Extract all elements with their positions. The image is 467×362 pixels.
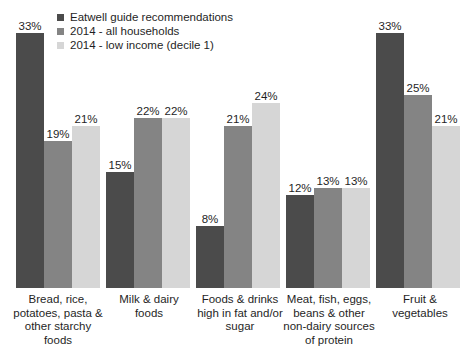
bar-g4-s0[interactable] (376, 33, 404, 288)
bar-wrap-g4-s2: 21% (432, 0, 460, 288)
legend-swatch-icon-series-1 (57, 14, 64, 21)
x-axis-label-4: Fruit & vegetables (376, 293, 464, 320)
bar-chart: Eatwell guide recommendations 2014 - all… (0, 0, 467, 362)
x-axis-category-labels: Bread, rice, potatoes, pasta & other sta… (0, 293, 467, 362)
bar-g3-s0[interactable] (286, 195, 314, 288)
legend-item-2014-all-households: 2014 - all households (57, 25, 233, 37)
bar-wrap-g3-s0: 12% (286, 0, 314, 288)
bar-g2-s2[interactable] (252, 103, 280, 288)
x-axis-label-1: Milk & dairy foods (104, 293, 194, 320)
legend-label-series-3: 2014 - low income (decile 1) (70, 39, 214, 51)
bar-wrap-g0-s0: 33% (16, 0, 44, 288)
x-axis-label-3: Meat, fish, eggs, beans & other non-dair… (282, 293, 376, 347)
legend-swatch-icon-series-3 (57, 42, 64, 49)
bar-value-g3-s2: 13% (334, 175, 378, 188)
bar-value-g4-s2: 21% (424, 113, 467, 126)
bar-g0-s1[interactable] (44, 141, 72, 288)
bar-value-g0-s2: 21% (64, 113, 108, 126)
bar-wrap-g4-s0: 33% (376, 0, 404, 288)
bar-g0-s0[interactable] (16, 33, 44, 288)
bar-value-g1-s2: 22% (154, 105, 198, 118)
bar-g1-s2[interactable] (162, 118, 190, 288)
bar-value-g2-s2: 24% (244, 90, 288, 103)
x-axis-label-2: Foods & drinks high in fat and/or sugar (194, 293, 286, 334)
bar-wrap-g3-s2: 13% (342, 0, 370, 288)
bar-wrap-g3-s1: 13% (314, 0, 342, 288)
legend-label-series-2: 2014 - all households (70, 25, 179, 37)
bar-g3-s1[interactable] (314, 188, 342, 288)
bar-g1-s1[interactable] (134, 118, 162, 288)
bar-g2-s1[interactable] (224, 126, 252, 288)
bar-group-fruit-vegetables: 33% 25% 21% (376, 0, 460, 288)
legend-item-2014-low-income: 2014 - low income (decile 1) (57, 39, 233, 51)
bar-g0-s2[interactable] (72, 126, 100, 288)
bar-wrap-g2-s2: 24% (252, 0, 280, 288)
legend-item-eatwell-guide-recommendations: Eatwell guide recommendations (57, 11, 233, 23)
x-axis-label-0: Bread, rice, potatoes, pasta & other sta… (10, 293, 106, 347)
bar-g4-s2[interactable] (432, 126, 460, 288)
bar-wrap-g4-s1: 25% (404, 0, 432, 288)
bar-g2-s0[interactable] (196, 226, 224, 288)
legend-swatch-icon-series-2 (57, 28, 64, 35)
bar-group-meat-fish-eggs-beans: 12% 13% 13% (286, 0, 370, 288)
bar-g3-s2[interactable] (342, 188, 370, 288)
chart-legend: Eatwell guide recommendations 2014 - all… (57, 11, 233, 53)
legend-label-series-1: Eatwell guide recommendations (70, 11, 233, 23)
bar-g1-s0[interactable] (106, 172, 134, 288)
